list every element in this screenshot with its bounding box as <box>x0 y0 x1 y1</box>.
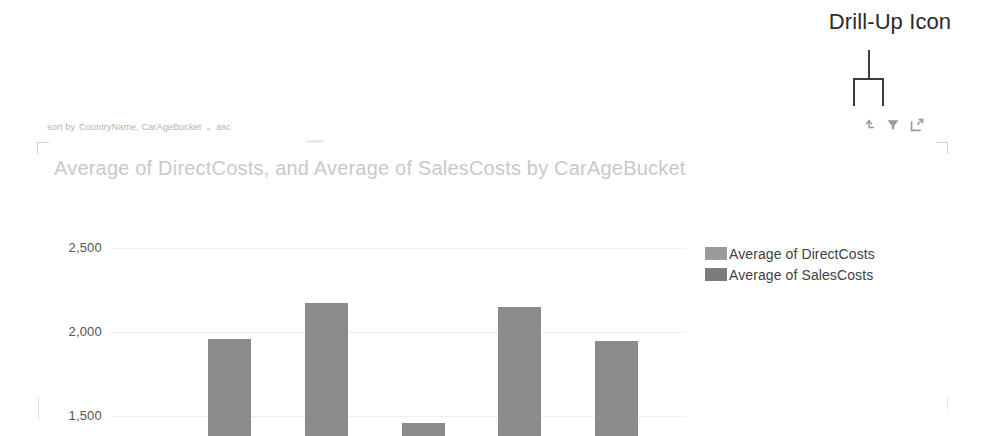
bar-column[interactable] <box>595 341 638 436</box>
chart-plot-area[interactable]: 2,5002,0001,500 <box>110 231 686 436</box>
bar-chart-visual[interactable]: Average of DirectCosts, and Average of S… <box>38 143 948 436</box>
bar-column[interactable] <box>402 423 445 436</box>
filter-icon[interactable] <box>886 118 900 132</box>
sort-by-bar[interactable]: sort byCountryName, CarAgeBucket⌄asc <box>47 121 231 134</box>
sort-by-prefix: sort by <box>47 122 75 132</box>
screenshot-canvas: Drill-Up Icon sort byCountryName, CarAge… <box>0 0 985 436</box>
legend-item[interactable]: Average of DirectCosts <box>705 243 945 264</box>
legend-label: Average of DirectCosts <box>729 245 875 263</box>
focus-mode-icon[interactable] <box>910 118 924 132</box>
bar-column[interactable] <box>305 303 348 436</box>
chevron-down-icon[interactable]: ⌄ <box>205 123 212 132</box>
sort-by-field[interactable]: CountryName, CarAgeBucket <box>79 122 201 132</box>
visual-header-toolbar[interactable] <box>862 118 924 132</box>
chart-legend[interactable]: Average of DirectCostsAverage of SalesCo… <box>705 243 945 285</box>
y-axis-tick-label: 2,000 <box>42 324 102 340</box>
gridline <box>110 332 686 333</box>
bar-column[interactable] <box>498 307 541 436</box>
drill-up-icon[interactable] <box>862 118 876 132</box>
legend-swatch <box>705 268 727 281</box>
legend-item[interactable]: Average of SalesCosts <box>705 264 945 285</box>
y-axis-tick-label: 1,500 <box>42 408 102 424</box>
y-axis-tick-label: 2,500 <box>42 240 102 256</box>
sort-direction[interactable]: asc <box>217 122 231 132</box>
legend-label: Average of SalesCosts <box>729 266 873 284</box>
annotation-label-drill-up-icon: Drill-Up Icon <box>800 8 980 36</box>
annotation-callout-stem <box>868 50 870 79</box>
legend-swatch <box>705 247 727 260</box>
bar-column[interactable] <box>208 339 251 436</box>
annotation-callout-bracket <box>853 78 884 106</box>
chart-title: Average of DirectCosts, and Average of S… <box>54 155 685 181</box>
gridline <box>110 248 686 249</box>
